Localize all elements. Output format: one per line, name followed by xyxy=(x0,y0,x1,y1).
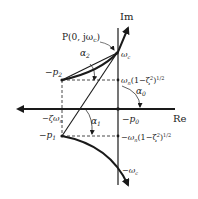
alpha0-label: α0 xyxy=(136,86,146,97)
re-axis-label: Re xyxy=(173,113,187,124)
alpha1-label: α1 xyxy=(91,116,101,127)
P-label: P(0, jωc) xyxy=(62,32,100,43)
zeta-wn-label: −ζωn xyxy=(42,114,63,124)
wc-label: ωc xyxy=(121,50,131,60)
point-p1 xyxy=(60,134,63,137)
P-leader xyxy=(100,42,114,50)
upper-imag-value-label: ωn(1−ζ2)1/2 xyxy=(121,75,164,86)
p1-label: −p1 xyxy=(39,130,56,141)
point-p2 xyxy=(60,78,63,81)
point-p0 xyxy=(116,107,120,111)
line-p1-to-P xyxy=(62,53,117,136)
im-axis-label: Im xyxy=(120,11,134,22)
p2-label: −p2 xyxy=(45,67,62,78)
point-upper-im xyxy=(117,79,120,82)
alpha2-label: α2 xyxy=(80,48,90,59)
neg-wc-label: −ωc xyxy=(122,166,138,176)
p0-label: −p0 xyxy=(122,114,139,125)
point-P xyxy=(115,51,118,54)
lower-imag-value-label: −ωn(1−ζ2)1/2 xyxy=(121,132,171,143)
root-locus-diagram: Im Re P(0, jωc) ωc −ωc −p2 −p1 −p0 −ζωn … xyxy=(0,0,198,199)
point-lower-im xyxy=(117,135,120,138)
